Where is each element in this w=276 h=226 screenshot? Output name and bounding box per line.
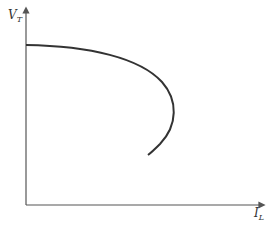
y-axis-label-sub: T — [17, 15, 22, 24]
x-axis-label-sub: L — [259, 213, 264, 222]
x-axis-label: IL — [254, 206, 264, 222]
y-axis-label: VT — [8, 8, 22, 24]
y-axis-label-main: V — [8, 8, 17, 22]
chart-canvas — [0, 0, 276, 226]
vt-il-curve — [26, 45, 174, 155]
